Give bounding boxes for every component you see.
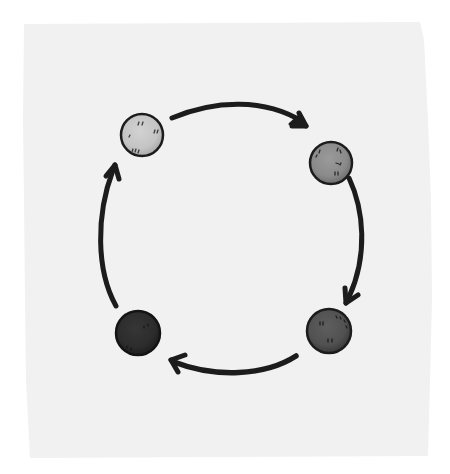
paper-sheet xyxy=(23,22,432,458)
cycle-diagram xyxy=(0,0,450,474)
node-bottom-left-sphere xyxy=(116,311,160,355)
node-top-right-sphere xyxy=(310,142,352,184)
node-top-left-sphere xyxy=(121,114,163,156)
node-bottom-right-sphere xyxy=(307,309,351,353)
diagram-canvas xyxy=(0,0,450,474)
